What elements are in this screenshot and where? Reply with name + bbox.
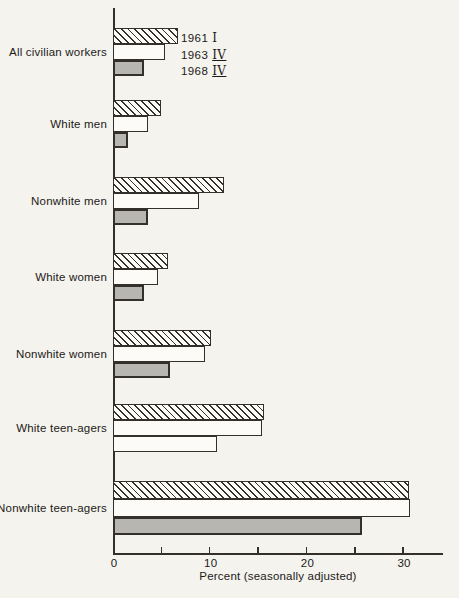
x-tick-label-0: 0 xyxy=(111,557,118,569)
bar-nonwhite-men-1968-iv xyxy=(113,209,148,225)
bar-white-men-1963-iv xyxy=(113,116,148,132)
bar-nonwhite-men-1963-iv xyxy=(113,193,199,209)
category-label-nonwhite-men: Nonwhite men xyxy=(31,195,107,207)
x-tick-25 xyxy=(354,547,356,553)
bar-nonwhite-teen-agers-1968-iv xyxy=(113,517,362,535)
legend-item-1963-iv: 1963IV xyxy=(181,47,226,63)
category-label-nonwhite-women: Nonwhite women xyxy=(16,348,107,360)
x-tick-label-10: 10 xyxy=(204,557,217,569)
bar-white-women-1968-iv xyxy=(113,285,144,301)
bar-white-teen-agers-1961-i xyxy=(113,404,264,420)
legend-item-1968-iv: 1968IV xyxy=(181,63,226,79)
category-label-nonwhite-teen-agers: Nonwhite teen-agers xyxy=(0,502,107,514)
x-tick-30 xyxy=(402,547,404,553)
legend-year: 1968 xyxy=(181,65,208,77)
category-label-white-men: White men xyxy=(50,118,107,130)
bar-all-civilian-workers-1961-i xyxy=(113,28,178,44)
legend-year: 1963 xyxy=(181,49,208,61)
x-tick-5 xyxy=(161,547,163,553)
category-label-white-teen-agers: White teen-agers xyxy=(16,422,107,434)
bar-white-teen-agers-1963-iv xyxy=(113,420,262,436)
bar-white-men-1961-i xyxy=(113,100,161,116)
legend-quarter-numeral: IV xyxy=(212,48,226,62)
x-tick-label-20: 20 xyxy=(301,557,314,569)
bar-nonwhite-teen-agers-1961-i xyxy=(113,481,409,499)
chart-figure: 0102030 All civilian workersWhite menNon… xyxy=(0,0,459,598)
x-tick-label-30: 30 xyxy=(397,557,410,569)
category-label-all-civilian-workers: All civilian workers xyxy=(9,46,107,58)
bar-all-civilian-workers-1963-iv xyxy=(113,44,165,60)
bar-nonwhite-men-1961-i xyxy=(113,177,224,193)
legend-item-1961-i: 1961I xyxy=(181,30,217,46)
bar-white-women-1963-iv xyxy=(113,269,158,285)
x-tick-10 xyxy=(209,547,211,553)
legend-quarter-numeral: I xyxy=(212,31,217,45)
legend-year: 1961 xyxy=(181,32,208,44)
bar-white-teen-agers-1968-iv xyxy=(113,436,217,452)
x-axis-title: Percent (seasonally adjusted) xyxy=(113,570,443,582)
bar-white-women-1961-i xyxy=(113,253,168,269)
bar-nonwhite-women-1961-i xyxy=(113,330,211,346)
legend-quarter-numeral: IV xyxy=(212,64,226,78)
x-axis-line xyxy=(113,553,443,555)
x-tick-20 xyxy=(306,547,308,553)
bar-white-men-1968-iv xyxy=(113,132,128,148)
bar-nonwhite-women-1968-iv xyxy=(113,362,170,378)
category-label-white-women: White women xyxy=(35,271,107,283)
bar-nonwhite-teen-agers-1963-iv xyxy=(113,499,410,517)
bar-nonwhite-women-1963-iv xyxy=(113,346,205,362)
bar-all-civilian-workers-1968-iv xyxy=(113,60,144,76)
x-tick-15 xyxy=(257,547,259,553)
